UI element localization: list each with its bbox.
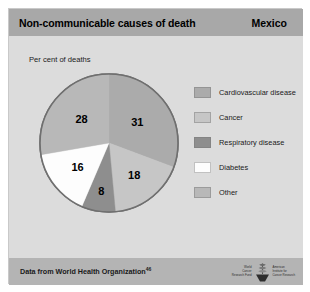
legend: Cardiovascular diseaseCancerRespiratory … bbox=[194, 86, 298, 211]
logo-line: Research Fund bbox=[232, 274, 252, 278]
legend-label: Cardiovascular disease bbox=[219, 88, 296, 97]
country-label: Mexico bbox=[251, 17, 291, 29]
source-reference: 46 bbox=[146, 266, 152, 272]
source-text: Data from World Health Organization bbox=[20, 267, 146, 276]
legend-swatch bbox=[194, 162, 211, 173]
chart-footer: Data from World Health Organization46 Wo… bbox=[9, 258, 303, 285]
legend-item: Other bbox=[194, 186, 298, 198]
wcrf-emblem-icon bbox=[254, 262, 271, 283]
legend-item: Diabetes bbox=[194, 161, 298, 173]
wcrf-logo-text: WorldCancerResearch Fund bbox=[232, 266, 254, 277]
axis-label: Per cent of deaths bbox=[29, 55, 91, 64]
pie-chart-svg: 311881628 bbox=[38, 72, 180, 214]
legend-item: Cardiovascular disease bbox=[194, 86, 298, 98]
pie-slice-label: 31 bbox=[131, 116, 143, 128]
page-title: Non-communicable causes of death bbox=[19, 17, 196, 29]
legend-label: Other bbox=[219, 188, 237, 197]
pie-slice-label: 16 bbox=[71, 161, 83, 173]
legend-label: Cancer bbox=[219, 113, 243, 122]
organization-logos: WorldCancerResearch Fund AmericanInstitu… bbox=[209, 261, 295, 283]
legend-swatch bbox=[194, 137, 211, 148]
chart-card: Non-communicable causes of death Mexico … bbox=[8, 8, 302, 284]
legend-label: Diabetes bbox=[219, 163, 248, 172]
pie-slice-label: 28 bbox=[75, 113, 87, 125]
legend-item: Cancer bbox=[194, 111, 298, 123]
chart-header: Non-communicable causes of death Mexico bbox=[9, 9, 303, 36]
chart-body: Per cent of deaths 311881628 Cardiovascu… bbox=[9, 36, 303, 258]
chart-figure: Non-communicable causes of death Mexico … bbox=[0, 0, 310, 292]
source-note: Data from World Health Organization46 bbox=[20, 266, 151, 276]
legend-swatch bbox=[194, 112, 211, 123]
legend-swatch bbox=[194, 87, 211, 98]
aicr-logo-text: AmericanInstitute forCancer Research bbox=[271, 266, 296, 277]
legend-item: Respiratory disease bbox=[194, 136, 298, 148]
pie-chart: 311881628 bbox=[38, 72, 180, 214]
pie-slice-label: 8 bbox=[98, 185, 104, 197]
pie-slice-label: 18 bbox=[128, 169, 140, 181]
logo-line: Cancer Research bbox=[273, 274, 296, 278]
legend-swatch bbox=[194, 187, 211, 198]
legend-label: Respiratory disease bbox=[219, 138, 284, 147]
